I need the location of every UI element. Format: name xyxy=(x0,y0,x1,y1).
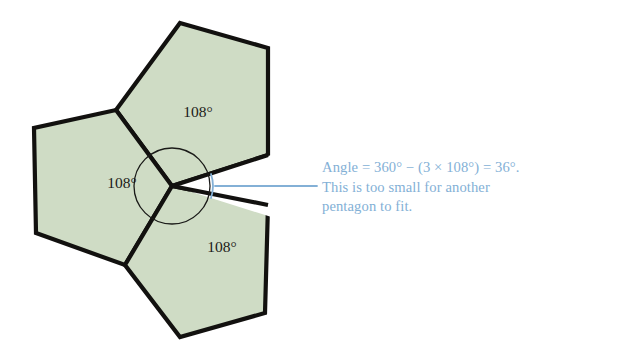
caption-block: Angle = 360° − (3 × 108°) = 36°. This is… xyxy=(322,158,520,217)
figure-root: 108° 108° 108° Angle = 360° − (3 × 108°)… xyxy=(0,0,623,359)
bottom-pentagon-angle-label: 108° xyxy=(207,238,236,255)
left-pentagon-angle-label: 108° xyxy=(107,174,136,191)
caption-line-1: Angle = 360° − (3 × 108°) = 36°. xyxy=(322,158,520,178)
caption-line-3: pentagon to fit. xyxy=(322,197,520,217)
top-pentagon-angle-label: 108° xyxy=(183,103,212,120)
pentagon-gap-diagram: 108° 108° 108° xyxy=(0,0,623,359)
caption-line-2: This is too small for another xyxy=(322,178,520,198)
